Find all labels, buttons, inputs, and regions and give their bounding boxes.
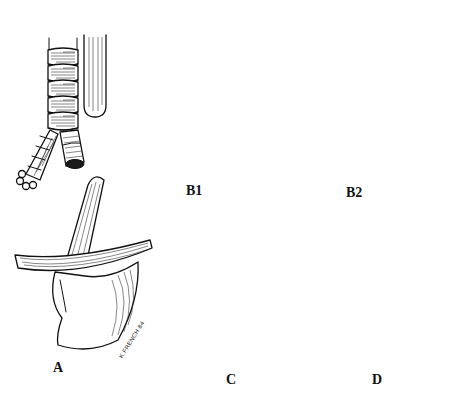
panel-label-a: A <box>53 361 63 375</box>
illustration-svg <box>0 0 468 407</box>
panel-label-c: C <box>226 373 236 387</box>
panel-a-drawing <box>15 35 152 349</box>
figure-canvas: A B1 B2 C D K.FRENCH 84 <box>0 0 468 407</box>
panel-label-d: D <box>372 373 382 387</box>
panel-label-b1: B1 <box>186 184 202 198</box>
panel-label-b2: B2 <box>346 186 362 200</box>
